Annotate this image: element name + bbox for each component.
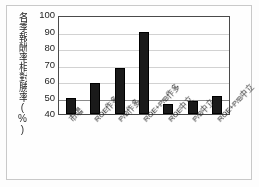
y-tick-label: 60: [31, 75, 55, 86]
x-axis-tick-labels: 市場ROE作多P/B作多ROE+P/B作多ROE中立P/B中立ROE+P/B中立: [58, 116, 230, 184]
y-tick-label: 80: [31, 42, 55, 53]
y-tick-label: 90: [31, 25, 55, 36]
y-axis-tick-labels: 100908070605040: [31, 14, 55, 114]
bar-slot: [59, 17, 83, 114]
y-tick-label: 40: [31, 108, 55, 119]
y-axis-title: 各季報酬率相對勝率(%): [13, 12, 27, 138]
y-tick-label: 50: [31, 91, 55, 102]
chart-figure: 各季報酬率相對勝率(%) 100908070605040 市場ROE作多P/B作…: [0, 0, 259, 187]
bar-slot: [83, 17, 107, 114]
y-tick-label: 100: [31, 9, 55, 20]
y-tick-label: 70: [31, 58, 55, 69]
